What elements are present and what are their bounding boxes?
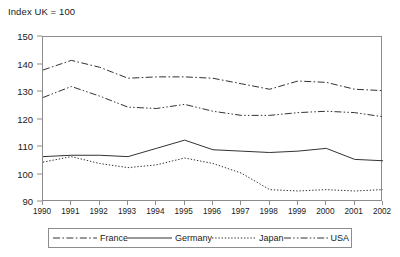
x-axis-tick-label: 1996 — [203, 207, 221, 216]
legend-swatch-germany-icon — [128, 234, 172, 242]
x-axis-tick-label: 1993 — [118, 207, 136, 216]
legend-item-usa[interactable]: USA — [284, 233, 350, 243]
legend-label: Japan — [259, 233, 284, 243]
x-axis-tick-mark — [184, 201, 185, 205]
x-axis-tick-mark — [99, 201, 100, 205]
legend-label: USA — [331, 233, 350, 243]
x-axis-tick-label: 1992 — [90, 207, 108, 216]
x-axis-tick-label: 2001 — [345, 207, 363, 216]
legend-swatch-france-icon — [53, 234, 97, 242]
x-axis-tick-mark — [155, 201, 156, 205]
legend-swatch-japan-icon — [212, 234, 256, 242]
plot-lines — [43, 37, 383, 202]
chart-container: Index UK = 100 15014013012011010090 1990… — [0, 0, 400, 257]
x-axis-tick-mark — [354, 201, 355, 205]
x-axis-tick-mark — [325, 201, 326, 205]
y-axis-tick-label: 130 — [17, 86, 33, 97]
x-axis: 1990199119921993199419951996199719981999… — [42, 201, 382, 223]
y-axis-tick-label: 140 — [17, 58, 33, 69]
x-axis-tick-mark — [42, 201, 43, 205]
chart-legend: FranceGermanyJapanUSA — [48, 228, 352, 248]
x-axis-tick-mark — [212, 201, 213, 205]
x-axis-tick-label: 2002 — [373, 207, 391, 216]
plot-area — [42, 36, 382, 201]
x-axis-tick-mark — [297, 201, 298, 205]
y-axis-tick-label: 150 — [17, 31, 33, 42]
x-axis-tick-label: 1995 — [175, 207, 193, 216]
y-axis-tick-label: 90 — [22, 196, 33, 207]
x-axis-tick-label: 1998 — [260, 207, 278, 216]
y-axis-tick-label: 120 — [17, 113, 33, 124]
x-axis-tick-label: 2000 — [316, 207, 334, 216]
legend-item-france[interactable]: France — [53, 233, 128, 243]
chart-title: Index UK = 100 — [8, 6, 75, 17]
series-line-usa — [43, 87, 383, 117]
series-line-france — [43, 60, 383, 90]
series-line-germany — [43, 140, 383, 161]
y-axis-tick-label: 100 — [17, 168, 33, 179]
legend-item-germany[interactable]: Germany — [128, 233, 212, 243]
y-axis-tick-label: 110 — [18, 141, 33, 152]
x-axis-tick-label: 1999 — [288, 207, 306, 216]
x-axis-tick-label: 1994 — [146, 207, 164, 216]
x-axis-tick-mark — [382, 201, 383, 205]
x-axis-tick-mark — [269, 201, 270, 205]
legend-label: Germany — [175, 233, 212, 243]
x-axis-tick-label: 1991 — [61, 207, 79, 216]
x-axis-tick-label: 1990 — [33, 207, 51, 216]
x-axis-tick-mark — [70, 201, 71, 205]
legend-swatch-usa-icon — [284, 234, 328, 242]
x-axis-tick-mark — [127, 201, 128, 205]
legend-item-japan[interactable]: Japan — [212, 233, 284, 243]
y-axis: 15014013012011010090 — [0, 30, 42, 208]
x-axis-tick-mark — [240, 201, 241, 205]
series-line-japan — [43, 157, 383, 191]
legend-label: France — [100, 233, 128, 243]
x-axis-tick-label: 1997 — [231, 207, 249, 216]
